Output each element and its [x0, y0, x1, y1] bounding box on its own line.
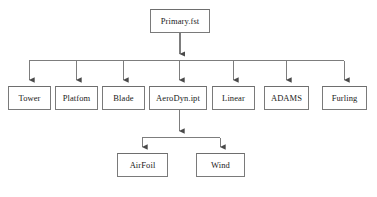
- node-label: ADAMS: [271, 93, 302, 102]
- node-label: AeroDyn.ipt: [156, 93, 200, 102]
- node-airfoil[interactable]: AirFoil: [117, 153, 168, 177]
- node-aerodyn-ipt[interactable]: AeroDyn.ipt: [149, 86, 207, 110]
- node-platfom[interactable]: Platfom: [55, 86, 98, 110]
- node-label: Primary.fst: [161, 16, 200, 25]
- node-label: Furling: [332, 93, 358, 102]
- node-linear[interactable]: Linear: [212, 86, 255, 110]
- node-furling[interactable]: Furling: [322, 86, 367, 110]
- node-wind[interactable]: Wind: [196, 153, 245, 177]
- node-tower[interactable]: Tower: [8, 86, 51, 110]
- node-label: Platfom: [63, 93, 91, 102]
- node-label: AirFoil: [130, 160, 156, 169]
- node-blade[interactable]: Blade: [102, 86, 145, 110]
- node-label: Linear: [222, 93, 245, 102]
- diagram-canvas: Primary.fst Tower Platfom Blade AeroDyn.…: [0, 0, 377, 197]
- node-primary-fst[interactable]: Primary.fst: [150, 9, 210, 33]
- node-label: Blade: [113, 93, 133, 102]
- node-label: Wind: [211, 160, 230, 169]
- node-adams[interactable]: ADAMS: [264, 86, 309, 110]
- node-label: Tower: [18, 93, 40, 102]
